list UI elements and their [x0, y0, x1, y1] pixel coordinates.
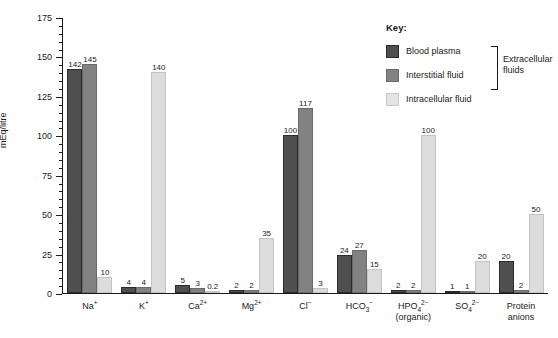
bar-value-label: 2 [249, 282, 253, 290]
bar-group-bars: 1001173 [279, 18, 333, 293]
y-tick-major [56, 294, 62, 295]
electrolyte-composition-bar-chart: mEq/litre 0255075100125150175 14214510Na… [0, 0, 558, 338]
y-tick-minor [59, 121, 63, 122]
y-tick-minor [59, 81, 63, 82]
medium-gray-swatch [386, 69, 399, 82]
y-tick-major [56, 255, 62, 256]
bar: 3 [190, 288, 205, 293]
y-tick-label: 150 [37, 52, 52, 62]
bar: 4 [121, 287, 136, 293]
y-tick-minor [59, 286, 63, 287]
legend-item-label: Intracellular fluid [406, 94, 472, 104]
bar-group-bars: 530.2 [171, 18, 225, 293]
y-tick-minor [59, 42, 63, 43]
x-axis-category-label: SO42− [455, 301, 479, 312]
y-tick-minor [59, 168, 63, 169]
bracket-label-line1: Extracellular [503, 54, 553, 64]
bar-group: 1001173Cl− [279, 18, 333, 293]
y-tick-label: 125 [37, 92, 52, 102]
bar: 145 [82, 64, 97, 293]
light-gray-swatch [386, 93, 399, 106]
y-tick-minor [59, 278, 63, 279]
bar-value-label: 2 [234, 282, 238, 290]
y-tick-minor [59, 144, 63, 145]
bar: 20 [475, 261, 490, 293]
bar-value-label: 2 [519, 282, 523, 290]
y-tick-major [56, 97, 62, 98]
bar-value-label: 2 [396, 282, 400, 290]
y-tick-minor [59, 231, 63, 232]
bar-group: 44140K+ [117, 18, 171, 293]
y-tick-major [56, 57, 62, 58]
bar-value-label: 4 [127, 279, 131, 287]
y-tick-minor [59, 113, 63, 114]
y-tick-label: 75 [42, 171, 52, 181]
y-tick-label: 175 [37, 13, 52, 23]
bar: 2 [244, 290, 259, 293]
bar-value-label: 50 [532, 206, 541, 214]
y-tick-minor [59, 270, 63, 271]
bar-value-label: 20 [478, 253, 487, 261]
bar-value-label: 1 [450, 283, 454, 291]
bar-value-label: 2 [411, 282, 415, 290]
bar-value-label: 100 [422, 127, 435, 135]
y-tick-label: 25 [42, 250, 52, 260]
y-tick-label: 0 [47, 289, 52, 299]
bar-value-label: 10 [100, 269, 109, 277]
x-axis-category-label: Ca2+ [188, 301, 207, 312]
bar-value-label: 0.2 [207, 283, 218, 291]
bar-value-label: 140 [152, 64, 165, 72]
y-tick-minor [59, 89, 63, 90]
bar-value-label: 100 [284, 127, 297, 135]
bar-value-label: 4 [142, 279, 146, 287]
bar-group: 14214510Na+ [63, 18, 117, 293]
bar-value-label: 142 [68, 61, 81, 69]
bar: 100 [421, 135, 436, 293]
y-tick-minor [59, 184, 63, 185]
y-tick-minor [59, 160, 63, 161]
bar: 2 [229, 290, 244, 293]
bar: 15 [367, 269, 382, 293]
y-axis-title: mEq/litre [0, 112, 8, 148]
bar-value-label: 24 [340, 247, 349, 255]
bar-group-bars: 44140 [117, 18, 171, 293]
bar-group-bars: 2235 [225, 18, 279, 293]
bar: 35 [259, 238, 274, 293]
x-axis-category-label: HPO42−(organic) [396, 301, 432, 323]
legend-item-label: Interstitial fluid [406, 70, 464, 80]
y-tick-minor [59, 239, 63, 240]
bar: 20 [499, 261, 514, 293]
bar-value-label: 3 [195, 280, 199, 288]
bar-group: 530.2Ca2+ [171, 18, 225, 293]
bar-value-label: 27 [355, 242, 364, 250]
y-tick-minor [59, 223, 63, 224]
bar: 100 [283, 135, 298, 293]
y-tick-minor [59, 262, 63, 263]
legend-title: Key: [386, 22, 556, 33]
y-tick-major [56, 176, 62, 177]
bar-value-label: 20 [502, 253, 511, 261]
bar: 140 [151, 72, 166, 293]
bar-value-label: 15 [370, 261, 379, 269]
bar: 0.2 [205, 291, 220, 293]
bar-value-label: 35 [262, 230, 271, 238]
bar: 10 [97, 277, 112, 293]
bar: 1 [460, 291, 475, 293]
bar: 27 [352, 250, 367, 293]
bar: 142 [67, 69, 82, 293]
bar-group: 2235Mg2+ [225, 18, 279, 293]
bar-group-bars: 242715 [332, 18, 386, 293]
bar-value-label: 5 [180, 277, 184, 285]
x-axis-category-label: K+ [139, 301, 149, 312]
bar: 50 [529, 214, 544, 293]
legend-item-label: Blood plasma [406, 46, 461, 56]
extracellular-bracket [491, 46, 498, 90]
y-tick-label: 50 [42, 210, 52, 220]
x-axis-line [62, 293, 548, 294]
y-tick-minor [59, 65, 63, 66]
bar: 4 [136, 287, 151, 293]
y-tick-minor [59, 199, 63, 200]
dark-gray-swatch [386, 45, 399, 58]
bar: 2 [406, 290, 421, 293]
legend-item: Intracellular fluid [386, 89, 556, 109]
